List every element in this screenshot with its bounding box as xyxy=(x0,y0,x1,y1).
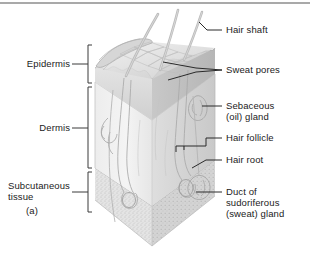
bracket-subcutaneous xyxy=(88,172,92,212)
label-hair-root: Hair root xyxy=(226,154,308,165)
label-sweat-pores: Sweat pores xyxy=(226,64,310,75)
bracket-epidermis xyxy=(88,45,92,83)
leader-hair-shaft xyxy=(199,22,222,30)
label-hair-follicle: Hair follicle xyxy=(226,132,308,143)
label-epidermis: Epidermis xyxy=(2,58,70,69)
label-hair-shaft: Hair shaft xyxy=(226,24,308,35)
bracket-dermis xyxy=(88,87,92,168)
label-dermis: Dermis xyxy=(2,122,70,133)
label-sweat-duct: Duct of sudoriferous (sweat) gland xyxy=(226,186,310,219)
label-panel-letter: (a) xyxy=(26,205,66,216)
skin-anatomy-figure: Epidermis Dermis Subcutaneous tissue (a)… xyxy=(0,0,310,261)
label-sebaceous-gland: Sebaceous (oil) gland xyxy=(226,100,308,122)
label-subcutaneous-tissue: Subcutaneous tissue xyxy=(8,180,78,202)
